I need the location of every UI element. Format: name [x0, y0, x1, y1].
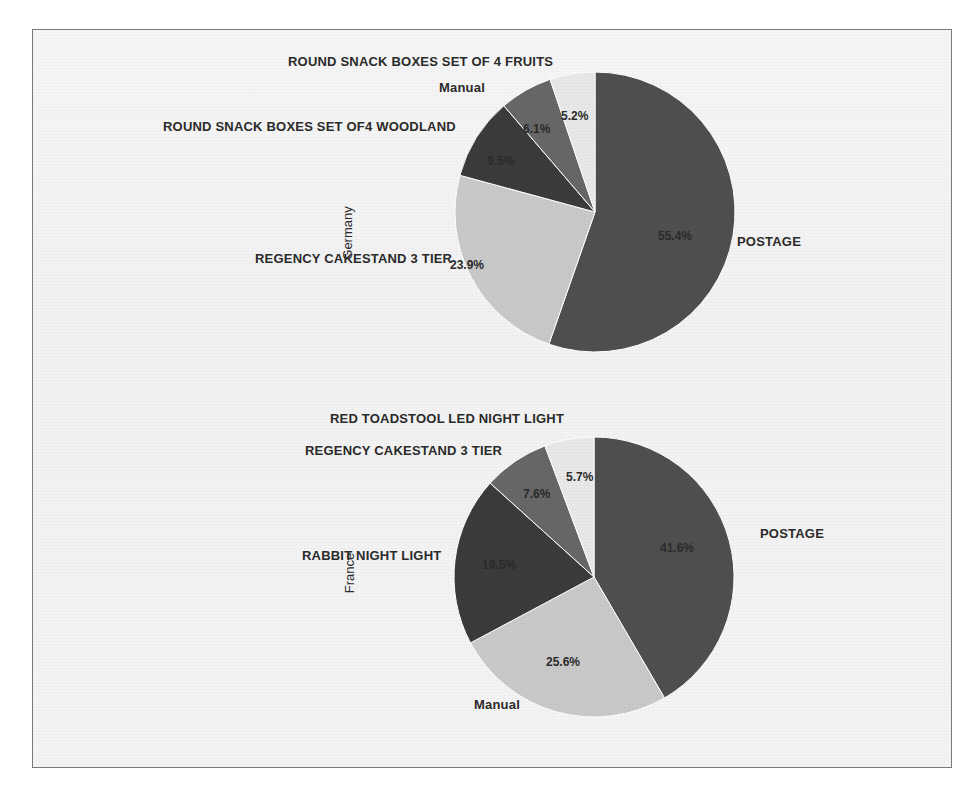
- label-postage-bottom: POSTAGE: [760, 526, 824, 541]
- pct-manual-bottom: 25.6%: [546, 655, 580, 669]
- pct-regency-cakestand-top: 23.9%: [450, 258, 484, 272]
- pct-postage-top: 55.4%: [658, 229, 692, 243]
- label-regency-cakestand-bottom: REGENCY CAKESTAND 3 TIER: [305, 443, 503, 458]
- label-round-snack-boxes-fruits: ROUND SNACK BOXES SET OF 4 FRUITS: [288, 54, 553, 69]
- pct-red-toadstool-bottom: 5.7%: [566, 470, 594, 484]
- label-round-snack-boxes-woodland: ROUND SNACK BOXES SET OF4 WOODLAND: [163, 119, 456, 134]
- axis-label-germany: Germany: [340, 206, 355, 260]
- label-red-toadstool-led-night-light: RED TOADSTOOL LED NIGHT LIGHT: [330, 411, 564, 426]
- bottom-pie-slices: [454, 437, 734, 717]
- page-canvas: ROUND SNACK BOXES SET OF 4 FRUITS Manual…: [0, 0, 978, 795]
- pct-manual-top: 5.2%: [561, 109, 589, 123]
- pct-postage-bottom: 41.6%: [660, 541, 694, 555]
- label-manual-bottom: Manual: [474, 697, 520, 712]
- top-pie-slices: [455, 72, 735, 352]
- label-postage-top: POSTAGE: [737, 234, 801, 249]
- pct-regency-cakestand-bottom: 7.6%: [523, 487, 551, 501]
- top-pie-chart: ROUND SNACK BOXES SET OF 4 FRUITS Manual…: [163, 54, 801, 352]
- label-rabbit-night-light: RABBIT NIGHT LIGHT: [302, 548, 441, 563]
- axis-label-france: France: [342, 553, 357, 593]
- pct-fruits-top: 6.1%: [523, 122, 551, 136]
- pct-rabbit-bottom: 19.5%: [482, 558, 516, 572]
- pct-woodland-top: 9.5%: [487, 154, 515, 168]
- bottom-pie-chart: RED TOADSTOOL LED NIGHT LIGHT REGENCY CA…: [302, 411, 824, 717]
- pie-charts-figure: ROUND SNACK BOXES SET OF 4 FRUITS Manual…: [0, 0, 978, 795]
- label-manual-top: Manual: [439, 80, 485, 95]
